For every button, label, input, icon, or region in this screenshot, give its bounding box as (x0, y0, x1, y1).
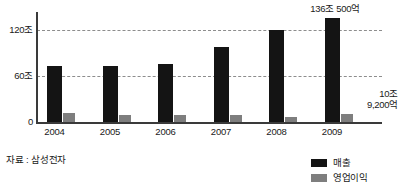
y-tick-label-0: 0 (28, 117, 33, 127)
legend-swatch-profit (311, 174, 327, 182)
bar-profit-2007 (230, 115, 242, 122)
bar-profit-2006 (174, 115, 186, 122)
bar-revenue-2005 (103, 66, 118, 122)
source-caption: 자료 : 삼성전자 (6, 152, 66, 166)
bar-profit-2005 (119, 115, 131, 122)
legend-item-profit: 영업이익 (311, 170, 397, 185)
legend-swatch-revenue (311, 159, 327, 167)
bar-profit-2008 (285, 117, 297, 122)
data-label-revenue-2009: 136조 500억 (292, 3, 378, 14)
x-tick-label-2005: 2005 (87, 127, 134, 137)
bar-revenue-2008 (269, 30, 284, 122)
legend-label-profit: 영업이익 (333, 173, 368, 183)
x-tick-label-2004: 2004 (31, 127, 78, 137)
x-tick-label-2008: 2008 (253, 127, 300, 137)
legend-item-revenue: 매출 (311, 155, 397, 170)
bar-revenue-2007 (214, 47, 229, 122)
x-tick-label-2009: 2009 (309, 127, 356, 137)
bar-revenue-2009 (325, 18, 340, 122)
x-tick-label-2006: 2006 (142, 127, 189, 137)
legend-label-revenue: 매출 (333, 158, 350, 168)
x-axis-line (36, 122, 382, 124)
chart-figure: 120조 60조 0 2004 200 (0, 0, 400, 191)
bar-revenue-2004 (47, 66, 62, 122)
y-tick-label-120: 120조 (9, 25, 33, 35)
y-axis-line (36, 12, 38, 123)
bar-profit-2009 (341, 114, 353, 122)
bar-profit-2004 (63, 113, 75, 122)
x-tick-label-2007: 2007 (198, 127, 245, 137)
chart-legend: 매출 영업이익 (311, 155, 397, 185)
data-label-profit-2009: 10조 9,200억 (342, 88, 398, 110)
y-tick-label-60: 60조 (14, 71, 33, 81)
bar-revenue-2006 (158, 64, 173, 122)
